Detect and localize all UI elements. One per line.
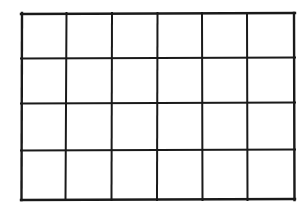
grid-cell[interactable] [202,13,247,58]
grid-cell[interactable] [66,58,112,103]
grid-line-vertical [202,13,203,200]
grid-cell[interactable] [21,103,66,150]
grid-cell[interactable] [247,103,295,150]
grid-cell[interactable] [66,150,112,200]
grid-cell[interactable] [157,150,202,200]
grid-border-top [21,13,295,14]
grid-cell[interactable] [157,103,202,150]
grid-svg [0,0,305,212]
grid-cell[interactable] [112,103,157,150]
grid-line-vertical [66,13,67,200]
grid-cell[interactable] [157,13,202,58]
grid-cell[interactable] [66,13,112,58]
grid-line-vertical [157,13,158,200]
grid-border-right [294,13,295,200]
grid-cell[interactable] [247,13,295,58]
grid-cell[interactable] [112,150,157,200]
grid-cell[interactable] [66,103,112,150]
grid-cell[interactable] [202,58,247,103]
grid-cell[interactable] [247,58,295,103]
grid-cell[interactable] [21,58,66,103]
grid-border-left [22,13,23,200]
grid-cell[interactable] [202,150,247,200]
grid-cell[interactable] [112,13,157,58]
grid-border-bottom [21,199,295,200]
grid-cell[interactable] [157,58,202,103]
grid-cell[interactable] [21,150,66,200]
grid-line-vertical [247,13,248,200]
grid-cell[interactable] [21,13,66,58]
grid-line-vertical [112,13,113,200]
grid-figure [0,0,305,212]
grid-cell[interactable] [112,58,157,103]
grid-cell[interactable] [202,103,247,150]
grid-cell[interactable] [247,150,295,200]
